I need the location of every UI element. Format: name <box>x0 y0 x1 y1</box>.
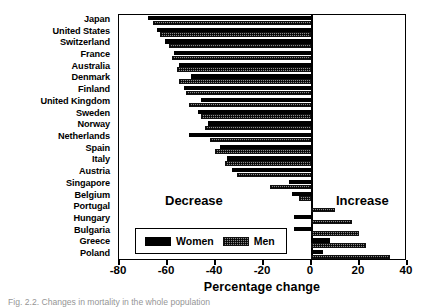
annotation-decrease: Decrease <box>165 193 223 208</box>
legend-item-men: Men <box>214 235 275 247</box>
y-axis-label-bulgaria: Bulgaria <box>0 226 110 235</box>
y-axis-label-united-states: United States <box>0 27 110 36</box>
y-axis-label-hungary: Hungary <box>0 214 110 223</box>
bar-men-netherlands <box>210 138 311 142</box>
y-axis-label-australia: Australia <box>0 62 110 71</box>
bar-women-japan <box>148 16 311 20</box>
bar-women-finland <box>184 86 311 90</box>
annotation-increase: Increase <box>336 193 389 208</box>
y-axis-label-united-kingdom: United Kingdom <box>0 97 110 106</box>
bar-men-finland <box>186 91 311 95</box>
bar-women-united-states <box>157 28 311 32</box>
bar-men-united-kingdom <box>189 103 311 107</box>
legend-item-women: Women <box>136 235 214 247</box>
bar-men-belgium <box>299 196 311 200</box>
bar-men-portugal <box>311 208 335 212</box>
y-axis-label-france: France <box>0 50 110 59</box>
bar-women-france <box>174 51 311 55</box>
chart-legend: Women Men <box>135 228 287 254</box>
legend-swatch-men <box>223 237 249 246</box>
x-axis-tick-labels: -80-60-40-2002040 <box>0 264 445 278</box>
legend-label-men: Men <box>254 235 275 247</box>
x-tick-label--20: -20 <box>237 264 287 277</box>
bar-women-norway <box>208 121 311 125</box>
y-axis-label-netherlands: Netherlands <box>0 132 110 141</box>
bar-women-spain <box>220 145 311 149</box>
plot-area: Decrease Increase Women Men <box>118 14 406 260</box>
bar-men-france <box>172 56 311 60</box>
y-axis-label-poland: Poland <box>0 249 110 258</box>
legend-swatch-women <box>145 237 171 246</box>
bar-women-sweden <box>198 110 311 114</box>
x-tick-label--40: -40 <box>189 264 239 277</box>
y-axis-label-belgium: Belgium <box>0 191 110 200</box>
y-axis-label-spain: Spain <box>0 144 110 153</box>
bar-men-austria <box>237 173 311 177</box>
y-axis-label-greece: Greece <box>0 237 110 246</box>
y-axis-label-denmark: Denmark <box>0 73 110 82</box>
y-axis-label-italy: Italy <box>0 155 110 164</box>
bar-women-singapore <box>289 180 311 184</box>
y-axis-label-portugal: Portugal <box>0 202 110 211</box>
bar-men-australia <box>177 67 311 71</box>
y-axis-label-sweden: Sweden <box>0 109 110 118</box>
bar-men-denmark <box>179 79 311 83</box>
bar-women-hungary <box>294 215 311 219</box>
bar-women-united-kingdom <box>201 98 311 102</box>
bar-men-greece <box>311 243 366 247</box>
bar-men-hungary <box>311 220 352 224</box>
x-tick-label-40: 40 <box>381 264 431 277</box>
bar-men-italy <box>225 161 311 165</box>
bar-men-switzerland <box>169 44 311 48</box>
y-axis-labels: JapanUnited StatesSwitzerlandFranceAustr… <box>0 14 114 260</box>
bar-women-denmark <box>191 74 311 78</box>
bar-men-sweden <box>201 114 311 118</box>
bar-men-united-states <box>160 32 311 36</box>
bar-men-poland <box>311 255 390 259</box>
bar-men-norway <box>205 126 311 130</box>
x-tick-label-0: 0 <box>285 264 335 277</box>
bar-women-belgium <box>292 192 311 196</box>
y-axis-label-singapore: Singapore <box>0 179 110 188</box>
figure-caption: Fig. 2.2. Changes in mortality in the wh… <box>8 297 445 308</box>
bar-men-bulgaria <box>311 231 359 235</box>
bar-men-singapore <box>270 185 311 189</box>
x-tick-label-20: 20 <box>333 264 383 277</box>
bar-women-poland <box>311 250 323 254</box>
bar-women-netherlands <box>189 133 311 137</box>
bar-women-switzerland <box>165 39 311 43</box>
x-axis-title: Percentage change <box>118 280 406 294</box>
bar-women-bulgaria <box>294 227 311 231</box>
bar-women-austria <box>232 168 311 172</box>
y-axis-label-finland: Finland <box>0 85 110 94</box>
y-axis-label-norway: Norway <box>0 120 110 129</box>
figure: JapanUnited StatesSwitzerlandFranceAustr… <box>0 0 445 308</box>
bar-men-spain <box>215 149 311 153</box>
bar-women-italy <box>227 156 311 160</box>
x-tick-label--60: -60 <box>141 264 191 277</box>
y-axis-label-japan: Japan <box>0 15 110 24</box>
legend-label-women: Women <box>176 235 214 247</box>
y-axis-label-austria: Austria <box>0 167 110 176</box>
bar-women-portugal <box>311 203 313 207</box>
y-axis-label-switzerland: Switzerland <box>0 38 110 47</box>
bar-women-australia <box>179 63 311 67</box>
x-tick-label--80: -80 <box>93 264 143 277</box>
bar-women-greece <box>311 238 330 242</box>
bar-men-japan <box>153 21 311 25</box>
